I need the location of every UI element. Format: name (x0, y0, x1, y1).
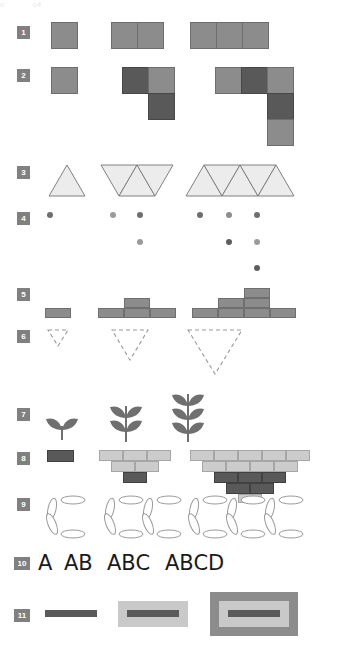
triangle-group-2 (101, 160, 177, 198)
pattern-sequence-sheet: o c4 1 2 3 (0, 0, 342, 660)
letter-item-2: AB (64, 552, 93, 574)
row-badge-11: 11 (14, 609, 30, 622)
dashed-triangle-1 (46, 328, 70, 348)
bar (45, 308, 71, 318)
row-badge-2: 2 (17, 69, 30, 82)
brick-dark (47, 450, 74, 462)
brick-light (238, 450, 262, 461)
leaf-sprig-3 (168, 390, 208, 444)
square (111, 22, 138, 49)
leaf-sprig-1 (44, 390, 80, 444)
square (267, 119, 294, 146)
bar (192, 308, 218, 318)
dot (137, 212, 143, 218)
row-badge-1: 1 (17, 26, 30, 39)
brick-dark (214, 472, 238, 483)
triangle-group-3 (186, 160, 298, 198)
brick-dark (123, 472, 147, 483)
bar (150, 308, 176, 318)
brick-dark (238, 472, 262, 483)
dot (47, 212, 53, 218)
square (51, 67, 78, 94)
row-badge-3: 3 (17, 166, 30, 179)
bar (244, 308, 270, 318)
brick-dark (262, 472, 286, 483)
square (137, 22, 164, 49)
brick-light (147, 450, 171, 461)
brick-light (214, 450, 238, 461)
leaf-sprig-2 (106, 390, 146, 444)
square (215, 67, 242, 94)
brick-light (226, 461, 250, 472)
dot (226, 212, 232, 218)
letter-item-3: ABC (107, 552, 150, 574)
brick-light (99, 450, 123, 461)
square (242, 22, 269, 49)
letter-item-1: A (38, 552, 52, 574)
dashed-triangle-3 (186, 328, 244, 376)
bar (244, 288, 270, 298)
ellipse-cluster-2 (102, 494, 184, 540)
triangle-group-1 (49, 160, 89, 198)
row-badge-5: 5 (17, 288, 30, 301)
dot (110, 212, 116, 218)
square-dark (267, 93, 294, 120)
dot (254, 239, 260, 245)
bar (218, 308, 244, 318)
brick-light (286, 450, 310, 461)
row-badge-4: 4 (17, 212, 30, 225)
bar (218, 298, 244, 308)
square-dark (241, 67, 268, 94)
brick-light (190, 450, 214, 461)
bar (124, 308, 150, 318)
dashed-triangle-2 (110, 328, 150, 362)
brick-light (250, 461, 274, 472)
dot (226, 239, 232, 245)
square (216, 22, 243, 49)
dot (137, 239, 143, 245)
dot (254, 212, 260, 218)
ellipse-cluster-1 (44, 494, 88, 540)
brick-light (274, 461, 298, 472)
nested-rect-core (228, 610, 280, 617)
square (190, 22, 217, 49)
row-badge-8: 8 (17, 452, 30, 465)
square-dark (122, 67, 149, 94)
square (148, 67, 175, 94)
brick-dark (250, 483, 274, 494)
brick-light (262, 450, 286, 461)
row-badge-6: 6 (17, 330, 30, 343)
bar (244, 298, 270, 308)
dot (254, 265, 260, 271)
row-badge-9: 9 (17, 498, 30, 511)
nested-rect-core (127, 610, 179, 617)
brick-light (135, 461, 159, 472)
top-partial-text: o c4 (0, 0, 342, 10)
top-partial-text-0: o (0, 0, 4, 9)
brick-light (202, 461, 226, 472)
brick-light (111, 461, 135, 472)
bar (124, 298, 150, 308)
nested-rect-core (45, 610, 97, 617)
top-partial-text-1: c4 (33, 0, 41, 9)
letter-item-4: ABCD (165, 552, 224, 574)
row-badge-7: 7 (17, 408, 30, 421)
brick-dark (226, 483, 250, 494)
row-badge-10: 10 (14, 557, 30, 570)
square-dark (148, 93, 175, 120)
dot (197, 212, 203, 218)
ellipse-cluster-3 (186, 494, 308, 540)
bar (270, 308, 296, 318)
square (267, 67, 294, 94)
square (51, 22, 78, 49)
brick-light (123, 450, 147, 461)
bar (98, 308, 124, 318)
